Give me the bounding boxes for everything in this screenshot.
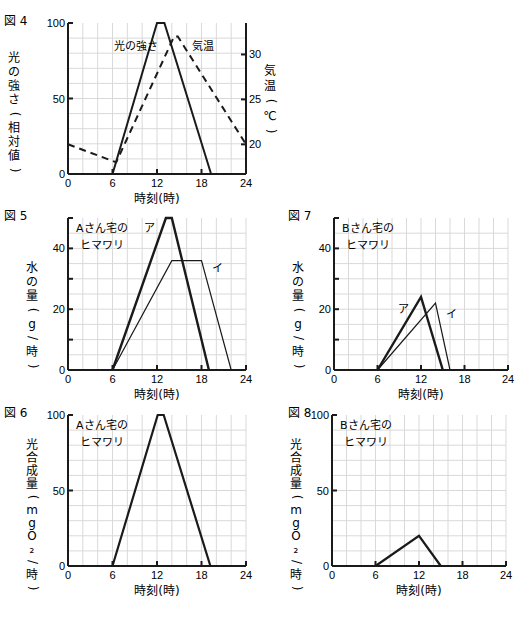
series-label: ア (398, 303, 409, 316)
x-tick-label: 0 (65, 569, 71, 581)
svg-text:水: 水 (292, 261, 304, 275)
y-tick-label: 0 (59, 560, 65, 572)
svg-text:(: ( (26, 308, 40, 313)
x-tick-label: 24 (500, 569, 512, 581)
y-tick-label: 100 (311, 409, 329, 421)
svg-text:/: / (26, 560, 40, 565)
x-tick-label: 18 (195, 569, 207, 581)
y2-tick-label: 30 (249, 48, 261, 60)
svg-text:g: g (28, 317, 36, 331)
svg-text:気: 気 (264, 63, 276, 78)
x-axis-label: 時刻(時) (398, 388, 443, 402)
x-tick-label: 18 (195, 373, 207, 385)
svg-text:): ) (292, 364, 306, 369)
svg-text:さ: さ (8, 93, 20, 107)
y-tick-label: 50 (53, 93, 65, 105)
svg-text:温: 温 (264, 79, 276, 93)
svg-text:m: m (290, 503, 302, 517)
y-tick-label: 0 (323, 560, 329, 572)
chart-fig8: 06121824050100時刻(時)光合成量(mgO₂/時)Bさん宅のヒマワリ… (288, 406, 512, 598)
svg-text:光: 光 (290, 438, 302, 452)
y-axis-label: 光合成量(mgO₂/時) (26, 438, 40, 591)
svg-text:(: ( (264, 99, 278, 104)
svg-text:/: / (292, 336, 306, 341)
y-tick-label: 40 (53, 242, 65, 254)
y-tick-label: 20 (319, 303, 331, 315)
svg-text:O: O (291, 529, 300, 543)
axes: 06121824050100 (47, 409, 252, 581)
svg-text:ヒマワリ: ヒマワリ (344, 436, 388, 449)
figure-number: 図 7 (288, 209, 311, 223)
svg-text:量: 量 (290, 477, 302, 491)
x-tick-label: 24 (502, 373, 514, 385)
series-label: イ (212, 262, 223, 275)
y-tick-label: 0 (59, 168, 65, 180)
x-tick-label: 0 (331, 373, 337, 385)
y2-tick-label: 25 (249, 93, 261, 105)
x-tick-label: 24 (240, 569, 252, 581)
x-tick-label: 6 (374, 373, 380, 385)
y-axis-label: 光の強さ(相対値) (8, 51, 22, 173)
x-axis-label: 時刻(時) (134, 192, 179, 206)
y-tick-label: 20 (53, 303, 65, 315)
y-tick-label: 50 (53, 485, 65, 497)
svg-text:値: 値 (8, 148, 20, 163)
svg-text:光: 光 (8, 51, 20, 65)
svg-text:時: 時 (290, 568, 302, 582)
svg-text:合: 合 (290, 450, 302, 465)
chart-title: Bさん宅のヒマワリ (342, 221, 394, 252)
x-axis-label: 時刻(時) (396, 584, 441, 598)
svg-text:相: 相 (8, 121, 20, 135)
axes: 06121824050100 (311, 409, 512, 581)
chart-fig5: 0612182402040時刻(時)水の量(g/時)Aさん宅のヒマワリアイ図 5 (4, 209, 252, 402)
chart-fig6: 06121824050100時刻(時)光合成量(mgO₂/時)Aさん宅のヒマワリ… (4, 406, 252, 598)
svg-text:量: 量 (292, 289, 304, 303)
x-axis-label: 時刻(時) (134, 388, 179, 402)
figure-number: 図 6 (4, 406, 27, 420)
svg-text:℃: ℃ (263, 109, 276, 123)
svg-text:(: ( (292, 308, 306, 313)
svg-text:O: O (27, 529, 36, 543)
svg-text:): ) (26, 364, 40, 369)
svg-text:g: g (28, 516, 36, 530)
svg-text:/: / (290, 560, 304, 565)
svg-text:): ) (8, 168, 22, 173)
svg-text:時: 時 (26, 345, 38, 359)
x-tick-label: 18 (195, 177, 207, 189)
x-tick-label: 6 (372, 569, 378, 581)
svg-text:時: 時 (292, 345, 304, 359)
x-tick-label: 12 (151, 569, 163, 581)
series-label: ア (144, 222, 155, 235)
svg-text:): ) (264, 129, 278, 134)
svg-text:m: m (26, 503, 38, 517)
x-tick-label: 6 (109, 569, 115, 581)
figure-number: 図 4 (4, 14, 27, 28)
svg-text:量: 量 (26, 289, 38, 303)
x-tick-label: 12 (151, 373, 163, 385)
x-tick-label: 12 (415, 373, 427, 385)
x-tick-label: 6 (109, 177, 115, 189)
chart-title: Aさん宅のヒマワリ (76, 418, 128, 449)
svg-text:): ) (26, 586, 40, 591)
svg-text:/: / (26, 336, 40, 341)
x-axis-label: 時刻(時) (134, 584, 179, 598)
svg-text:Aさん宅の: Aさん宅の (76, 418, 128, 432)
svg-text:Bさん宅の: Bさん宅の (340, 418, 392, 432)
svg-text:g: g (292, 516, 300, 530)
svg-text:水: 水 (26, 261, 38, 275)
x-tick-label: 18 (458, 373, 470, 385)
svg-text:の: の (292, 275, 304, 289)
svg-text:量: 量 (26, 477, 38, 491)
series-label: 気温 (192, 39, 214, 53)
svg-text:(: ( (26, 495, 40, 500)
svg-text:時: 時 (26, 568, 38, 582)
x-tick-label: 0 (65, 373, 71, 385)
svg-text:₂: ₂ (294, 542, 299, 556)
svg-text:): ) (290, 586, 304, 591)
svg-text:成: 成 (26, 464, 38, 478)
x-tick-label: 24 (240, 373, 252, 385)
svg-text:ヒマワリ: ヒマワリ (80, 436, 124, 449)
y-tick-label: 100 (47, 409, 65, 421)
svg-text:(: ( (290, 495, 304, 500)
y-tick-label: 100 (47, 17, 65, 29)
